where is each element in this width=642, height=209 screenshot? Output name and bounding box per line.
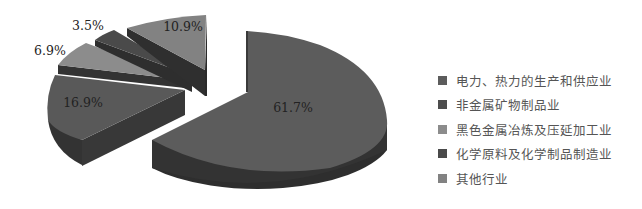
chart-legend: 电力、热力的生产和供应业 非金属矿物制品业 黑色金属冶炼及压延加工业 化学原料及… <box>438 68 638 191</box>
legend-swatch <box>438 125 447 134</box>
legend-label: 其他行业 <box>456 169 508 188</box>
legend-label: 非金属矿物制品业 <box>456 95 560 114</box>
slice-label-other: 10.9% <box>163 19 203 34</box>
slice-label-chemical: 3.5% <box>72 18 104 33</box>
legend-swatch <box>438 100 447 109</box>
pie-chart: 61.7% 16.9% 6.9% 3.5% 10.9% <box>0 0 430 209</box>
legend-label: 电力、热力的生产和供应业 <box>456 71 612 90</box>
slice-label-nonmetal: 16.9% <box>63 95 103 110</box>
legend-item: 非金属矿物制品业 <box>438 93 638 118</box>
legend-swatch <box>438 149 447 158</box>
legend-label: 化学原料及化学制品制造业 <box>456 144 612 163</box>
legend-swatch <box>438 76 447 85</box>
legend-swatch <box>438 174 447 183</box>
slice-label-electricity: 61.7% <box>273 100 313 115</box>
legend-item: 电力、热力的生产和供应业 <box>438 68 638 93</box>
legend-item: 黑色金属冶炼及压延加工业 <box>438 117 638 142</box>
legend-item: 其他行业 <box>438 166 638 191</box>
legend-label: 黑色金属冶炼及压延加工业 <box>456 120 612 139</box>
legend-item: 化学原料及化学制品制造业 <box>438 142 638 167</box>
slice-label-ferrous: 6.9% <box>34 43 66 58</box>
